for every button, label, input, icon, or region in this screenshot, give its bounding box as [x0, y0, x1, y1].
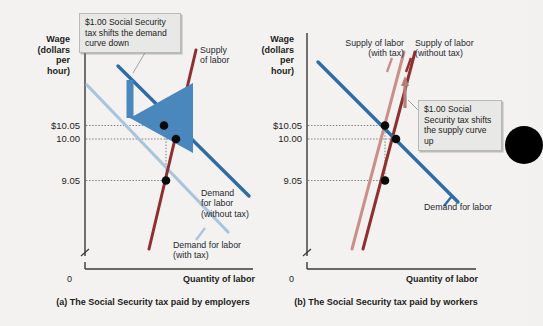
point-b-1000 — [392, 135, 401, 144]
panel-a-origin-label: 0 — [67, 274, 72, 285]
point-b-1005 — [381, 121, 390, 130]
panel-a-tick-905: 9.05 — [22, 175, 80, 186]
panel-b-tick-1000: 10.00 — [244, 133, 302, 144]
callout-leader-b — [408, 100, 418, 110]
panel-a-guidelines — [86, 126, 176, 181]
curve-demand-without-tax-a — [118, 66, 249, 196]
panel-b-origin-label: 0 — [289, 274, 294, 285]
label-demand-b: Demand for labor — [424, 202, 510, 212]
panel-a-tick-1005: $10.05 — [22, 120, 80, 131]
label-leader-a-demand-with-tax — [196, 228, 205, 240]
point-a-1000 — [172, 135, 181, 144]
point-b-905 — [381, 176, 390, 185]
callout-leader-a — [133, 51, 146, 73]
panel-a-axes — [81, 33, 253, 269]
label-demand-with-tax-a: Demand for labor (with tax) — [173, 240, 263, 261]
panel-a-caption: (a) The Social Security tax paid by empl… — [35, 297, 271, 308]
point-a-1005 — [160, 121, 169, 130]
label-supply-without-tax-b: Supply of labor (without tax) — [415, 38, 499, 59]
label-demand-without-tax-a: Demand for labor (without tax) — [201, 188, 265, 219]
panel-a-callout: $1.00 Social Security tax shifts the dem… — [79, 13, 181, 53]
panel-b-tick-905: 9.05 — [244, 175, 302, 186]
panel-b-callout: $1.00 Social Security tax shifts the sup… — [418, 100, 502, 151]
panel-b-y-axis-title: Wage (dollars per hour) — [240, 34, 294, 76]
label-supply-with-tax-b: Supply of labor (with tax) — [328, 38, 404, 59]
point-a-905 — [162, 176, 171, 185]
curve-supply-a — [149, 50, 196, 249]
panel-a-x-axis-title: Quantity of labor — [183, 274, 255, 285]
panel-b-callout-text: $1.00 Social Security tax shifts the sup… — [424, 104, 491, 146]
panel-a-tick-1000: 10.00 — [22, 133, 80, 144]
panel-b-x-axis-title: Quantity of labor — [406, 274, 478, 285]
label-leader-b-supply-with-tax — [387, 58, 392, 72]
panel-a-y-axis-title: Wage (dollars per hour) — [16, 34, 70, 76]
panel-b-caption: (b) The Social Security tax paid by work… — [263, 297, 509, 308]
panel-a-callout-text: $1.00 Social Security tax shifts the dem… — [85, 17, 167, 48]
edge-black-circle-artifact — [505, 126, 543, 164]
curve-supply-with-tax-b — [352, 52, 404, 249]
panel-b-tick-1005: $10.05 — [244, 120, 302, 131]
